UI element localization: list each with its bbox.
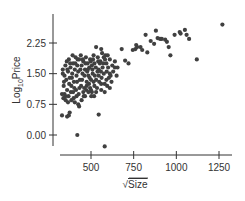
data-point — [96, 59, 100, 63]
data-point — [168, 53, 172, 57]
data-point — [103, 144, 107, 148]
data-point — [165, 40, 169, 44]
data-point — [185, 33, 189, 37]
data-point — [108, 86, 112, 90]
data-point — [75, 80, 79, 84]
data-point — [81, 57, 85, 61]
data-point — [94, 90, 98, 94]
data-point — [138, 45, 142, 49]
data-point — [154, 29, 158, 33]
data-point — [60, 113, 64, 117]
y-axis-label: Log10Price — [11, 56, 24, 104]
data-point — [110, 63, 114, 67]
data-point — [77, 104, 81, 108]
data-point — [80, 98, 84, 102]
data-point — [94, 78, 98, 82]
data-point — [103, 90, 107, 94]
data-point — [104, 78, 108, 82]
data-point — [145, 50, 149, 54]
data-point — [99, 70, 103, 74]
data-point — [75, 133, 79, 137]
data-point — [101, 61, 105, 65]
data-point — [86, 68, 90, 72]
data-point — [62, 80, 66, 84]
data-point — [80, 63, 84, 67]
data-point — [67, 82, 71, 86]
data-point — [80, 78, 84, 82]
data-point — [108, 57, 112, 61]
data-point — [68, 110, 72, 114]
data-point — [97, 74, 101, 78]
data-point — [126, 61, 130, 65]
data-point — [183, 28, 187, 32]
data-point — [82, 74, 86, 78]
data-point — [195, 57, 199, 61]
data-point — [173, 33, 177, 37]
data-point — [72, 86, 76, 90]
data-point — [91, 57, 95, 61]
x-axis-ticks: 50075010001250 — [83, 151, 231, 173]
data-point — [115, 65, 119, 69]
data-point — [94, 65, 98, 69]
data-point — [88, 76, 92, 80]
data-point — [99, 47, 103, 51]
data-point — [77, 86, 81, 90]
data-point — [73, 68, 77, 72]
data-point — [120, 47, 124, 51]
data-point — [71, 90, 75, 94]
data-point — [62, 84, 66, 88]
y-tick-label: 0.75 — [27, 99, 47, 110]
y-tick-label: 0.00 — [27, 130, 47, 141]
data-point — [94, 45, 98, 49]
data-point — [74, 94, 78, 98]
scatter-chart: 0.000.751.502.25 50075010001250 Log10Pri… — [0, 0, 245, 201]
x-tick-label: 500 — [83, 162, 100, 173]
data-point — [70, 72, 74, 76]
data-point — [109, 80, 113, 84]
data-point — [83, 61, 87, 65]
data-point — [78, 68, 82, 72]
data-point — [71, 53, 75, 57]
y-axis-ticks: 0.000.751.502.25 — [27, 38, 57, 141]
data-point — [65, 88, 69, 92]
data-point — [106, 65, 110, 69]
data-points — [60, 23, 225, 149]
data-point — [68, 61, 72, 65]
data-point — [73, 61, 77, 65]
data-point — [167, 45, 171, 49]
data-point — [76, 57, 80, 61]
data-point — [152, 42, 156, 46]
x-tick-label: 1250 — [208, 162, 231, 173]
data-point — [92, 53, 96, 57]
data-point — [108, 72, 112, 76]
data-point — [61, 68, 65, 72]
data-point — [144, 33, 148, 37]
data-point — [99, 82, 103, 86]
data-point — [187, 37, 191, 41]
x-axis-label: √Size — [123, 179, 148, 190]
data-point — [101, 65, 105, 69]
data-point — [63, 63, 67, 67]
data-point — [106, 53, 110, 57]
data-point — [63, 94, 67, 98]
data-point — [134, 43, 138, 47]
data-point — [100, 51, 104, 55]
data-point — [96, 55, 100, 59]
data-point — [89, 88, 93, 92]
data-point — [113, 59, 117, 63]
x-tick-label: 750 — [125, 162, 142, 173]
data-point — [97, 113, 101, 117]
data-point — [123, 59, 127, 63]
data-point — [149, 39, 153, 43]
data-point — [93, 74, 97, 78]
data-point — [81, 90, 85, 94]
x-tick-label: 1000 — [165, 162, 188, 173]
data-point — [65, 68, 69, 72]
data-point — [79, 53, 83, 57]
data-point — [61, 72, 65, 76]
data-point — [95, 86, 99, 90]
data-point — [83, 94, 87, 98]
data-point — [70, 76, 74, 80]
data-point — [103, 57, 107, 61]
data-point — [74, 74, 78, 78]
